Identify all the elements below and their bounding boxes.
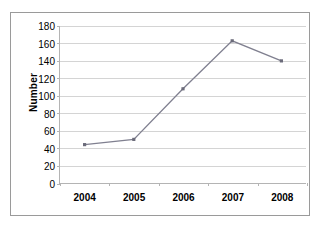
y-axis-tick-label: 0 [9, 179, 55, 190]
x-axis-tick-label: 2005 [123, 192, 145, 203]
data-point-marker [231, 39, 234, 42]
x-axis-tick-mark [258, 183, 259, 186]
chart-figure-frame: Number 020406080100120140160180 20042005… [10, 12, 310, 216]
y-axis-tick-label: 20 [9, 161, 55, 172]
data-point-marker [181, 87, 184, 90]
y-axis-tick-label: 60 [9, 126, 55, 137]
x-axis-tick-label: 2007 [222, 192, 244, 203]
series-markers [83, 39, 283, 146]
y-axis-tick-label: 80 [9, 108, 55, 119]
y-axis-tick-label: 160 [9, 38, 55, 49]
line-chart: Number 020406080100120140160180 20042005… [11, 13, 309, 215]
y-axis-tick-label: 140 [9, 56, 55, 67]
data-series-number [60, 26, 306, 183]
data-point-marker [132, 138, 135, 141]
x-axis-tick-label: 2008 [271, 192, 293, 203]
x-axis-tick-mark [60, 183, 61, 186]
data-point-marker [280, 59, 283, 62]
data-point-marker [83, 143, 86, 146]
x-axis-tick-mark [307, 183, 308, 186]
x-axis-tick-label: 2004 [74, 192, 96, 203]
series-line-path [85, 41, 282, 145]
y-axis-tick-label: 40 [9, 143, 55, 154]
x-axis-tick-label: 2006 [172, 192, 194, 203]
y-axis-tick-label: 180 [9, 21, 55, 32]
plot-area: 020406080100120140160180 200420052006200… [59, 26, 306, 184]
x-axis-tick-mark [109, 183, 110, 186]
y-axis-tick-label: 120 [9, 73, 55, 84]
x-axis-tick-mark [208, 183, 209, 186]
y-axis-tick-label: 100 [9, 91, 55, 102]
x-axis-tick-mark [159, 183, 160, 186]
